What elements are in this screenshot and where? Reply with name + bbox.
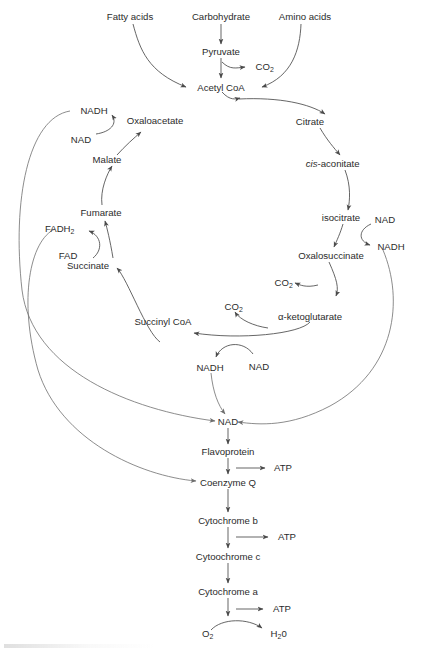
label-nadh-ketoglutarate: NADH: [196, 362, 223, 373]
label-cis-aconitate: cis-aconitate: [287, 158, 373, 169]
label-co2-oxalosuccinate: CO2: [256, 277, 306, 289]
label-atp-1: ATP: [274, 462, 292, 473]
label-nad-ketoglutarate: NAD: [249, 361, 269, 372]
arrow-amino-acids-to-acetyl-coa: [262, 24, 301, 87]
arrow-malate-to-oxaloacetate: [117, 132, 141, 155]
label-succinyl-coa: Succinyl CoA: [134, 316, 192, 327]
label-oxalosuccinate: Oxalosuccinate: [298, 250, 364, 261]
label-succinate: Succinate: [67, 260, 109, 271]
arrow-succinyl-coa-to-succinate: [117, 268, 160, 342]
label-pyruvate: Pyruvate: [202, 46, 240, 57]
curve-fadh2-to-coenzyme-q: [28, 229, 196, 481]
label-co2-ketoglutarate: CO2: [206, 301, 256, 313]
label-nadh-isocitrate: NADH: [377, 241, 404, 252]
label-coenzyme-q: Coenzyme Q: [200, 477, 256, 488]
label-fatty-acids: Fatty acids: [107, 11, 154, 22]
page-edge-artifact: [4, 644, 154, 648]
label-atp-3: ATP: [273, 603, 291, 614]
arrow-fad-to-fadh2: [89, 231, 100, 258]
diagram-canvas: Fatty acids Carbohydrate Amino acids Pyr…: [0, 0, 426, 651]
arrow-nad-to-nadh-malate: [96, 115, 114, 134]
arrow-cycle-top-to-citrate: [239, 99, 325, 114]
arrow-fumarate-to-malate: [102, 166, 112, 205]
label-fumarate: Fumarate: [80, 207, 121, 218]
metabolic-pathway-diagram: Fatty acids Carbohydrate Amino acids Pyr…: [0, 0, 426, 651]
arrow-citrate-to-cis-aconitate: [320, 128, 340, 155]
curve-nadh-ketoglutarate-to-nad-chain: [211, 373, 225, 414]
arrow-ketoglutarate-to-co2: [235, 312, 268, 328]
label-acetyl-coa: Acetyl CoA: [197, 82, 245, 93]
arrow-isocitrate-to-oxalosuccinate: [334, 224, 343, 247]
arrow-fatty-acids-to-acetyl-coa: [133, 24, 186, 87]
label-carbohydrate: Carbohydrate: [192, 11, 250, 22]
label-nad-chain-entry: NAD: [218, 416, 238, 427]
arrow-nad-to-nadh-ketoglutarate: [216, 345, 253, 357]
label-fad: FAD: [59, 250, 78, 261]
arrow-succinate-to-fumarate: [105, 221, 113, 258]
arrow-oxalosuccinate-to-ketoglutarate: [329, 262, 337, 296]
label-nad-isocitrate: NAD: [375, 214, 395, 225]
label-atp-2: ATP: [278, 531, 296, 542]
label-water: H20: [252, 628, 300, 640]
label-nad-malate: NAD: [71, 134, 91, 145]
arrow-cis-aconitate-to-isocitrate: [345, 170, 350, 210]
label-alpha-ketoglutarate: α-ketoglutarate: [278, 311, 342, 322]
label-citrate: Citrate: [296, 116, 324, 127]
label-fadh2: FADH2: [26, 223, 87, 235]
label-cytochrome-a: Cytochrome a: [198, 586, 258, 597]
label-co2-pyruvate: CO2: [237, 61, 287, 73]
label-nadh-malate: NADH: [80, 105, 107, 116]
label-amino-acids: Amino acids: [279, 11, 331, 22]
label-flavoprotein: Flavoprotein: [202, 446, 255, 457]
label-cytochrome-b: Cytochrome b: [198, 515, 258, 526]
label-oxygen: O2: [183, 628, 226, 640]
arrow-acetyl-coa-to-cycle: [222, 92, 240, 99]
label-malate: Malate: [93, 154, 122, 165]
label-oxaloacetate: Oxaloacetate: [127, 115, 184, 126]
label-isocitrate: isocitrate: [322, 212, 360, 223]
label-cytochrome-c: Cytoochrome c: [196, 551, 261, 562]
arrow-nad-to-nadh-isocitrate: [361, 224, 371, 245]
